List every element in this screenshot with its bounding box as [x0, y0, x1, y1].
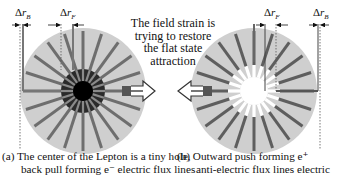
panel-a-delta-rb-label: ΔrB — [15, 6, 31, 21]
panel-a-center-hole — [73, 81, 93, 101]
panel-b-caption: (b) Outward push forming e⁺ anti-electri… — [177, 150, 330, 176]
annotation-line: the flat state — [118, 42, 228, 55]
annotation-line: attraction — [118, 55, 228, 68]
subscript: B — [324, 13, 328, 21]
panel-b-delta-rf-label: ΔrF — [264, 6, 280, 21]
subscript: F — [275, 13, 279, 21]
panel-b-center-hole — [240, 77, 268, 105]
caption-line: (a) The center of the Lepton is a tiny h… — [2, 150, 195, 163]
caption-line: (b) Outward push forming e⁺ — [177, 150, 330, 163]
panel-a-delta-rf-label: ΔrF — [60, 6, 76, 21]
caption-line: back pull forming e⁻ electric flux lines — [2, 163, 195, 176]
annotation-line: The field strain is — [118, 17, 228, 30]
subscript: B — [26, 13, 30, 21]
field-strain-annotation: The field strain is trying to restore th… — [118, 17, 228, 67]
panel-a-caption: (a) The center of the Lepton is a tiny h… — [2, 150, 195, 176]
caption-line: anti-electric flux lines electric — [177, 163, 330, 176]
subscript: F — [71, 13, 75, 21]
panel-b-delta-rb-label: ΔrB — [313, 6, 329, 21]
